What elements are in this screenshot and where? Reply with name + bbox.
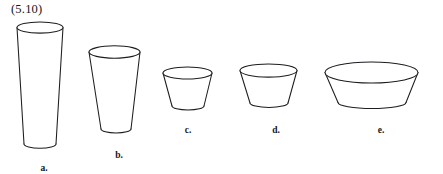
vessel-rim-ellipse-c bbox=[163, 67, 212, 79]
vessel-rim-ellipse-e bbox=[325, 62, 418, 83]
vessel-e bbox=[325, 62, 418, 109]
shape-label-d: d. bbox=[272, 126, 280, 136]
vessel-b bbox=[89, 46, 140, 133]
vessel-shapes-figure: (5.10) a.b.c.d.e. bbox=[0, 0, 443, 174]
shape-label-c: c. bbox=[185, 126, 192, 136]
vessel-drawing-canvas bbox=[0, 0, 443, 174]
vessel-rim-ellipse-b bbox=[89, 46, 140, 58]
shape-label-e: e. bbox=[378, 126, 385, 136]
vessel-c bbox=[163, 67, 212, 110]
vessel-body-fill-a bbox=[17, 28, 63, 149]
vessel-a bbox=[17, 22, 63, 148]
vessel-d bbox=[240, 64, 297, 108]
shape-label-b: b. bbox=[115, 151, 123, 161]
vessel-rim-ellipse-d bbox=[240, 64, 297, 77]
shape-label-a: a. bbox=[40, 164, 47, 174]
vessel-rim-ellipse-a bbox=[17, 22, 63, 33]
